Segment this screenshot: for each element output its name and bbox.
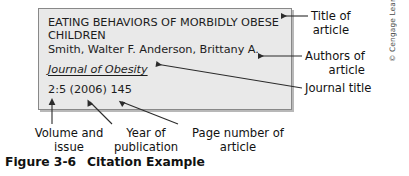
annotation-title-line1: Title of <box>311 9 351 23</box>
annotation-page-number-of-article: Page number of article <box>178 127 298 154</box>
figure-caption-number: Figure 3-6 <box>5 155 76 169</box>
annotation-authors-line1: Authors of <box>305 49 365 63</box>
annotation-year-line2: publication <box>110 141 182 155</box>
annotation-page-line1: Page number of <box>178 127 298 141</box>
annotation-authors-of-article: Authors of article <box>305 50 365 77</box>
citation-volume-issue-year-page: 2:5 (2006) 145 <box>48 83 132 96</box>
annotation-volume-and-issue: Volume and issue <box>24 127 114 154</box>
figure-citation-example: EATING BEHAVIORS OF MORBIDLY OBESE CHILD… <box>0 0 409 176</box>
annotation-year-line1: Year of <box>110 127 182 141</box>
figure-caption-title: Citation Example <box>87 155 205 169</box>
citation-title: EATING BEHAVIORS OF MORBIDLY OBESE CHILD… <box>48 16 288 42</box>
annotation-journal-title: Journal title <box>305 82 371 96</box>
annotation-volume-line2: issue <box>24 141 114 155</box>
citation-box: EATING BEHAVIORS OF MORBIDLY OBESE CHILD… <box>38 8 292 110</box>
annotation-page-line2: article <box>178 141 298 155</box>
copyright-notice: © Cengage Learning <box>388 0 397 62</box>
annotation-authors-line2: article <box>305 64 365 78</box>
figure-caption: Figure 3-6Citation Example <box>5 155 205 169</box>
annotation-title-of-article: Title of article <box>311 10 351 37</box>
citation-authors: Smith, Walter F. Anderson, Brittany A. <box>48 43 259 56</box>
annotation-title-line2: article <box>311 24 351 38</box>
annotation-volume-line1: Volume and <box>24 127 114 141</box>
citation-journal-title: Journal of Obesity <box>48 63 148 76</box>
annotation-year-of-publication: Year of publication <box>110 127 182 154</box>
